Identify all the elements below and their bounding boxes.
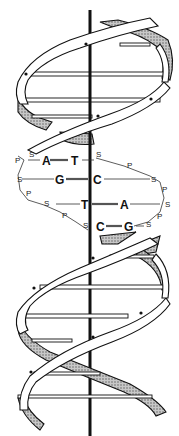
base-rung [120,43,150,46]
base-rung [18,314,128,318]
phosphate-dot [29,370,32,373]
phosphate-dot [32,286,35,289]
phosphate-label: P [15,156,20,165]
sugar-label: S [17,175,22,184]
sugar-label: S [151,175,156,184]
phosphate-dot [91,256,94,259]
phosphate-label: P [157,212,162,221]
back-strand-bottom-left [18,318,166,416]
sugar-label: S [29,150,34,159]
base-left-4: C [96,220,105,234]
phosphate-dot [91,335,94,338]
back-strand-mid-lower [100,232,136,244]
phosphate-dot [24,72,27,75]
base-right-1: T [71,154,79,168]
base-left-2: G [55,173,64,187]
phosphate-label: P [127,161,132,170]
phosphate-label: P [62,211,67,220]
base-rung [32,339,72,342]
sugar-label: S [165,200,170,209]
base-left-3: T [81,198,89,212]
sugar-label: S [96,150,101,159]
sugar-label: S [44,199,49,208]
bottom-helix-turn [16,238,170,430]
dna-helix-diagram: A T G C T A C G P S S P S P S S P S P S … [0,0,179,436]
sugar-label: S [83,221,88,230]
base-right-3: A [120,198,129,212]
front-strand-top [16,18,158,104]
base-right-2: C [93,173,102,187]
phosphate-label: P [162,185,167,194]
base-left-1: A [42,154,51,168]
phosphate-dot [149,97,152,100]
base-rung [28,72,166,76]
sugar-label: S [146,220,151,229]
base-rung [32,115,92,118]
phosphate-label: P [26,189,31,198]
phosphate-dot [84,42,87,45]
base-rung [18,395,152,398]
phosphate-dot [96,114,99,117]
phosphate-dot [139,311,142,314]
